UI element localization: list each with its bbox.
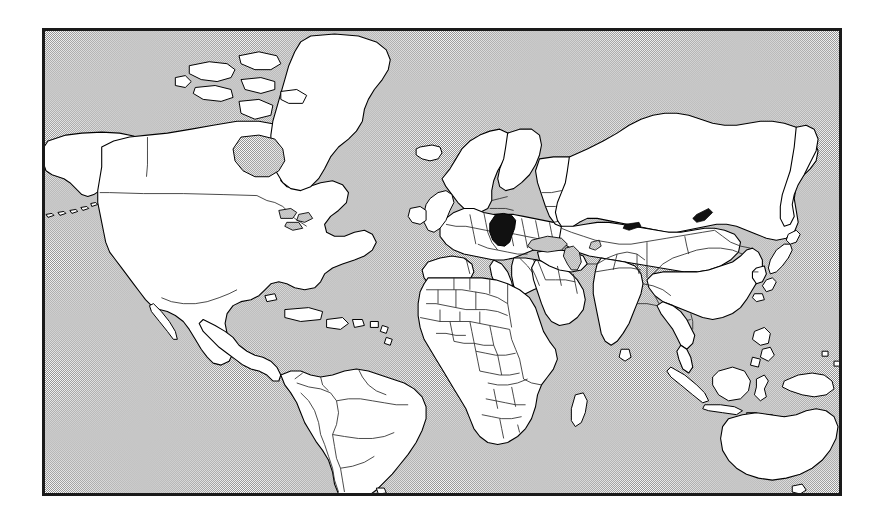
figure-page: .land { fill:#ffffff; stroke:#000000; st… [0, 0, 882, 523]
world-map-svg: .land { fill:#ffffff; stroke:#000000; st… [44, 30, 840, 494]
map-frame: .land { fill:#ffffff; stroke:#000000; st… [42, 28, 842, 496]
